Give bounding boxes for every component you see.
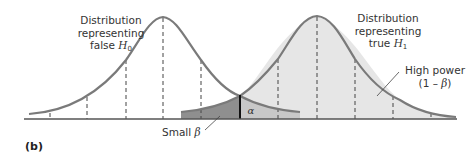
- beta-label: Small β: [162, 126, 212, 139]
- h0-label: Distribution representing false H0: [66, 14, 156, 56]
- alpha-label: α: [245, 105, 257, 118]
- power-label: High power (1 – β): [395, 64, 475, 89]
- panel-label: (b): [25, 140, 43, 153]
- h1-label: Distribution representing true H1: [343, 12, 433, 54]
